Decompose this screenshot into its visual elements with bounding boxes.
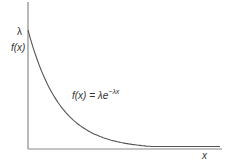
- density-curve: [28, 30, 220, 147]
- exponential-pdf-chart: [0, 0, 233, 163]
- formula-base: f(x) = λe: [72, 90, 108, 101]
- formula-exponent: −λx: [108, 88, 119, 95]
- x-axis-label: x: [202, 151, 207, 161]
- formula-annotation: f(x) = λe−λx: [72, 91, 119, 101]
- y-axis-label: f(x): [11, 43, 25, 53]
- lambda-label: λ: [17, 27, 22, 37]
